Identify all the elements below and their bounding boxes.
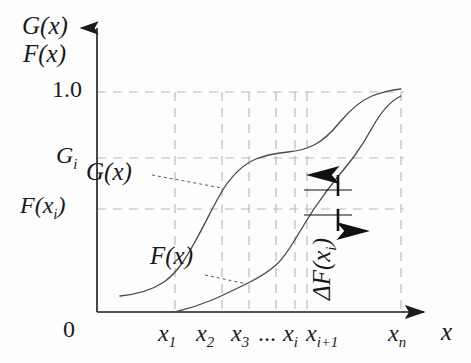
axes [97, 28, 424, 312]
y-tick-label-fxi: F(xi) [20, 192, 65, 223]
y-axis-caption-fx: F(x) [23, 40, 66, 68]
delta-f-xi-label: ΔF(xi) [308, 238, 340, 300]
x-tick-x3-sub: 3 [242, 334, 249, 350]
x-tick-xi-sub: i [294, 334, 298, 350]
y-axis-caption-gx: G(x) [22, 12, 68, 40]
x-tick-label-xi1: xi+1 [306, 320, 338, 351]
grid-lines [97, 92, 404, 312]
y-tick-label-1.0: 1.0 [52, 76, 82, 103]
figure-canvas [0, 0, 471, 363]
y-tick-fxi-base: F(x [20, 192, 53, 218]
x-tick-x1-sub: 1 [169, 334, 176, 350]
x-tick-label-x1: x1 [158, 320, 176, 351]
delta-label-sub: i [322, 246, 339, 250]
x-tick-x2-base: x [196, 320, 207, 346]
x-tick-label-x3: x3 [231, 320, 249, 351]
x-tick-xi1-base: x [306, 320, 317, 346]
x-tick-x1-base: x [158, 320, 169, 346]
y-tick-gi-base: G [56, 142, 73, 168]
x-tick-x3-base: x [231, 320, 242, 346]
delta-label-suffix: ) [308, 238, 335, 246]
x-axis-caption: x [441, 318, 452, 346]
cdf-comparison-figure: G(x) F(x) 1.0 Gi F(xi) 0 x1 x2 x3 ... xi… [0, 0, 471, 363]
x-tick-xi-base: x [283, 320, 294, 346]
x-tick-label-xi: xi [283, 320, 298, 351]
delta-label-main: ΔF(x [308, 251, 335, 300]
origin-label: 0 [63, 316, 75, 343]
y-tick-gi-sub: i [73, 156, 77, 172]
x-tick-xn-sub: n [399, 334, 406, 350]
curve-label-f-of-x: F(x) [150, 242, 193, 270]
delta-measurement [304, 175, 352, 231]
x-tick-xn-base: x [388, 320, 399, 346]
curve-f-of-x [175, 96, 401, 312]
leader-g-of-x [152, 175, 222, 188]
y-tick-fxi-suffix: ) [57, 192, 65, 218]
x-tick-label-x2: x2 [196, 320, 214, 351]
x-tick-label-ellipsis: ... [258, 320, 276, 347]
x-tick-xi1-sub: i+1 [317, 334, 339, 350]
leader-f-of-x [205, 275, 247, 284]
x-tick-x2-sub: 2 [207, 334, 214, 350]
curve-label-g-of-x: G(x) [86, 158, 132, 186]
y-tick-label-gi: Gi [56, 142, 77, 173]
x-tick-label-xn: xn [388, 320, 406, 351]
